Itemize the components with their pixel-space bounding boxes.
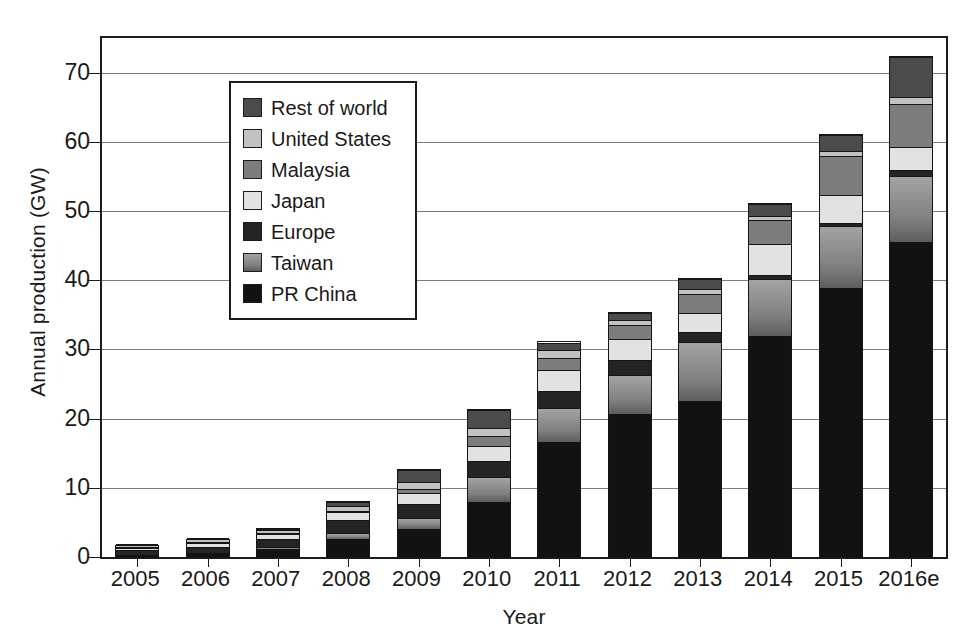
bar-segment-europe <box>538 391 580 408</box>
bar-segment-malaysia <box>749 220 791 244</box>
bar-segment-taiwan <box>609 375 651 414</box>
legend-swatch-icon <box>243 253 262 272</box>
bar-2006[interactable] <box>187 540 229 557</box>
bar-segment-rest-of-world <box>890 57 932 97</box>
bar-segment-taiwan <box>749 279 791 336</box>
bar-segment-malaysia <box>820 156 862 195</box>
legend-item-pr-china[interactable]: PR China <box>243 278 405 309</box>
y-axis-tick-label: 20 <box>40 407 90 430</box>
bar-segment-taiwan <box>820 226 862 288</box>
gridline <box>102 73 946 74</box>
legend-item-japan[interactable]: Japan <box>243 185 405 216</box>
bar-segment-rest-of-world <box>820 135 862 151</box>
bar-segment-japan <box>538 370 580 391</box>
bar-segment-taiwan <box>468 477 510 501</box>
bar-2007[interactable] <box>257 529 299 557</box>
bar-2015[interactable] <box>820 135 862 557</box>
plot-area: 010203040506070 Rest of worldUnited Stat… <box>100 36 948 559</box>
y-axis-tick <box>88 280 102 281</box>
legend-label: Japan <box>271 191 326 211</box>
bar-2013[interactable] <box>679 279 721 557</box>
bar-2010[interactable] <box>468 410 510 557</box>
bar-segment-rest-of-world <box>609 313 651 320</box>
bar-segment-pr-china <box>468 502 510 557</box>
bar-segment-japan <box>890 147 932 169</box>
bar-2009[interactable] <box>398 470 440 557</box>
bar-segment-pr-china <box>257 549 299 557</box>
bar-segment-united-states <box>538 350 580 358</box>
bar-2012[interactable] <box>609 313 651 557</box>
bar-segment-pr-china <box>749 336 791 557</box>
y-axis-tick-label: 30 <box>40 337 90 360</box>
y-axis-tick <box>88 73 102 74</box>
bar-segment-malaysia <box>538 358 580 370</box>
bar-segment-pr-china <box>890 242 932 557</box>
bar-segment-malaysia <box>679 294 721 313</box>
y-axis-tick-label: 60 <box>40 130 90 153</box>
y-axis-tick-label: 0 <box>40 545 90 568</box>
bar-segment-europe <box>679 332 721 342</box>
bar-segment-pr-china <box>538 442 580 557</box>
legend-item-rest-of-world[interactable]: Rest of world <box>243 92 405 123</box>
x-axis-title: Year <box>100 605 948 629</box>
y-axis-tick <box>88 557 102 558</box>
bar-segment-united-states <box>398 482 440 489</box>
bar-2014[interactable] <box>749 204 791 557</box>
bar-segment-malaysia <box>890 104 932 148</box>
bar-2016e[interactable] <box>890 57 932 557</box>
bar-segment-pr-china <box>398 529 440 557</box>
chart-legend: Rest of worldUnited StatesMalaysiaJapanE… <box>229 81 417 320</box>
y-axis-tick-label: 70 <box>40 61 90 84</box>
bar-segment-japan <box>609 339 651 360</box>
bar-segment-united-states <box>468 428 510 436</box>
legend-label: Europe <box>271 222 336 242</box>
bar-segment-europe <box>398 504 440 518</box>
x-axis-tick-label: 2016e <box>864 566 954 592</box>
y-axis-tick-label: 10 <box>40 476 90 499</box>
bar-2011[interactable] <box>538 342 580 557</box>
bar-segment-europe <box>890 170 932 177</box>
bar-segment-japan <box>820 195 862 223</box>
bar-segment-pr-china <box>820 288 862 557</box>
bar-segment-japan <box>327 512 369 520</box>
y-axis-tick-label: 50 <box>40 199 90 222</box>
bar-segment-taiwan <box>890 176 932 242</box>
bar-segment-taiwan <box>538 408 580 442</box>
bar-2008[interactable] <box>327 502 369 557</box>
bar-segment-rest-of-world <box>468 410 510 428</box>
legend-swatch-icon <box>243 222 262 241</box>
legend-swatch-icon <box>243 284 262 303</box>
bar-2005[interactable] <box>116 546 158 557</box>
legend-label: PR China <box>271 284 357 304</box>
legend-swatch-icon <box>243 160 262 179</box>
legend-swatch-icon <box>243 191 262 210</box>
bar-segment-europe <box>609 360 651 375</box>
bar-segment-taiwan <box>679 342 721 400</box>
bar-segment-japan <box>679 313 721 332</box>
bar-segment-pr-china <box>679 401 721 557</box>
bar-segment-malaysia <box>609 325 651 339</box>
bar-segment-taiwan <box>398 518 440 529</box>
legend-label: Malaysia <box>271 160 350 180</box>
y-axis-tick-label: 40 <box>40 268 90 291</box>
legend-label: United States <box>271 129 391 149</box>
bar-segment-japan <box>398 493 440 504</box>
legend-item-malaysia[interactable]: Malaysia <box>243 154 405 185</box>
y-axis-tick <box>88 211 102 212</box>
bar-segment-pr-china <box>609 414 651 557</box>
bar-segment-pr-china <box>327 539 369 557</box>
legend-label: Rest of world <box>271 98 388 118</box>
y-axis-tick <box>88 142 102 143</box>
legend-item-taiwan[interactable]: Taiwan <box>243 247 405 278</box>
y-axis-tick <box>88 488 102 489</box>
legend-label: Taiwan <box>271 253 333 273</box>
legend-item-united-states[interactable]: United States <box>243 123 405 154</box>
bar-segment-malaysia <box>468 436 510 446</box>
legend-item-europe[interactable]: Europe <box>243 216 405 247</box>
bar-segment-rest-of-world <box>398 470 440 482</box>
legend-swatch-icon <box>243 98 262 117</box>
legend-swatch-icon <box>243 129 262 148</box>
bar-segment-rest-of-world <box>679 279 721 289</box>
bar-segment-rest-of-world <box>538 343 580 351</box>
bar-segment-europe <box>257 539 299 547</box>
